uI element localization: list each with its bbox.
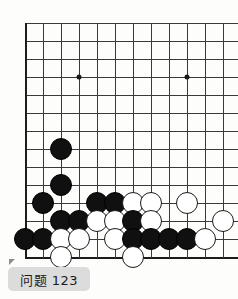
- board-line-vertical: [169, 23, 170, 258]
- white-stone[interactable]: [68, 228, 90, 250]
- star-point: [77, 75, 82, 80]
- board-line-horizontal: [25, 167, 238, 168]
- triangle-marker-icon: [9, 259, 15, 265]
- board-line-horizontal: [25, 59, 238, 60]
- problem-label-badge[interactable]: 问题 123: [8, 267, 90, 291]
- problem-label-text: 问题 123: [20, 270, 78, 289]
- board-line-vertical: [25, 23, 27, 258]
- board-line-horizontal: [25, 131, 238, 132]
- board-line-horizontal: [25, 113, 238, 114]
- board-grid: [0, 0, 238, 266]
- problem-diagram-page: 问题 123: [0, 0, 238, 299]
- board-line-horizontal: [25, 23, 238, 24]
- board-line-vertical: [205, 23, 206, 258]
- black-stone[interactable]: [32, 192, 54, 214]
- go-board[interactable]: [0, 0, 238, 266]
- black-stone[interactable]: [50, 174, 72, 196]
- star-point: [185, 75, 190, 80]
- board-line-vertical: [43, 23, 44, 258]
- white-stone[interactable]: [194, 228, 216, 250]
- board-line-horizontal: [25, 95, 238, 96]
- caption-area: 问题 123: [0, 259, 238, 299]
- black-stone[interactable]: [50, 138, 72, 160]
- white-stone[interactable]: [212, 210, 234, 232]
- white-stone[interactable]: [176, 192, 198, 214]
- board-line-horizontal: [25, 41, 238, 42]
- board-line-horizontal: [25, 77, 238, 78]
- board-line-vertical: [187, 23, 188, 258]
